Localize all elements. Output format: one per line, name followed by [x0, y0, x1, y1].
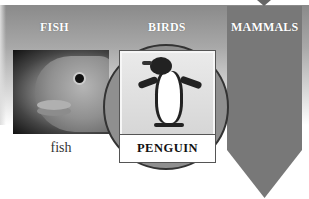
penguin-image: [122, 53, 213, 135]
penguin-beak: [142, 61, 152, 65]
fish-lips: [37, 100, 71, 110]
fish-column-label: FISH: [40, 20, 69, 35]
fish-image: [13, 50, 109, 134]
birds-column-label: BIRDS: [148, 20, 186, 35]
fish-caption: fish: [13, 140, 109, 156]
fish-face-shape: [35, 56, 109, 132]
mammals-column-label: MAMMALS: [231, 20, 298, 35]
penguin-wing-left: [137, 76, 158, 89]
penguin-wing-right: [179, 75, 202, 89]
top-pointer-icon: [257, 0, 271, 6]
fish-eye: [73, 72, 86, 85]
penguin-body: [158, 71, 180, 123]
penguin-card[interactable]: PENGUIN: [119, 50, 216, 163]
penguin-feet: [154, 123, 184, 127]
penguin-card-label: PENGUIN: [120, 134, 215, 162]
penguin-head: [150, 57, 172, 75]
